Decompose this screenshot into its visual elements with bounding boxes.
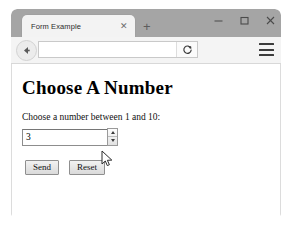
menu-line	[259, 54, 274, 56]
number-spinner[interactable]	[107, 128, 118, 146]
window-controls	[211, 13, 277, 27]
number-input[interactable]: 3	[22, 129, 117, 146]
menu-line	[259, 49, 274, 51]
page-title: Choose A Number	[22, 78, 280, 97]
close-button[interactable]	[263, 13, 277, 27]
navigation-toolbar	[11, 37, 281, 64]
spinner-up-arrow-icon	[111, 131, 115, 134]
number-field-label: Choose a number between 1 and 10:	[22, 113, 280, 123]
minimize-button[interactable]	[211, 13, 225, 27]
address-bar[interactable]	[38, 41, 198, 58]
send-button[interactable]: Send	[25, 160, 59, 176]
menu-line	[259, 43, 274, 45]
reload-icon	[182, 44, 193, 55]
tab-close-icon[interactable]: ✕	[120, 22, 128, 31]
maximize-button[interactable]	[237, 13, 251, 27]
reset-button[interactable]: Reset	[69, 160, 105, 176]
browser-window: Form Example ✕ +	[11, 9, 281, 216]
number-input-value: 3	[23, 132, 31, 142]
number-input-row: 3	[22, 129, 117, 146]
title-bar: Form Example ✕ +	[11, 9, 281, 37]
spinner-down-arrow-icon	[111, 139, 115, 142]
back-button[interactable]	[16, 40, 37, 61]
form-buttons: Send Reset	[25, 160, 280, 176]
back-arrow-icon	[20, 44, 33, 57]
hamburger-menu-button[interactable]	[259, 43, 274, 56]
new-tab-button[interactable]: +	[143, 20, 151, 33]
spinner-down-button[interactable]	[108, 136, 117, 145]
page-content: Choose A Number Choose a number between …	[11, 64, 281, 216]
tab-title: Form Example	[31, 22, 81, 31]
spinner-up-button[interactable]	[108, 129, 117, 137]
reload-button[interactable]	[176, 42, 197, 57]
browser-tab[interactable]: Form Example ✕	[22, 15, 135, 37]
